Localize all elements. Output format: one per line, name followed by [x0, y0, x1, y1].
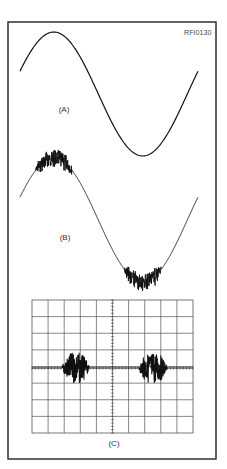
panel-c-oscilloscope [32, 300, 193, 433]
waveform-trace [20, 32, 198, 156]
panel-b-noisy-sine [20, 150, 198, 291]
panel-c-label: (C) [108, 440, 119, 448]
figure-frame [8, 22, 216, 459]
reference-id: RFI0130 [184, 29, 212, 36]
rfi-figure [0, 0, 227, 469]
panel-a-clean-sine [20, 32, 198, 156]
panel-a-label: (A) [59, 106, 70, 114]
panel-b-label: (B) [60, 234, 71, 242]
waveform-trace [20, 150, 198, 291]
